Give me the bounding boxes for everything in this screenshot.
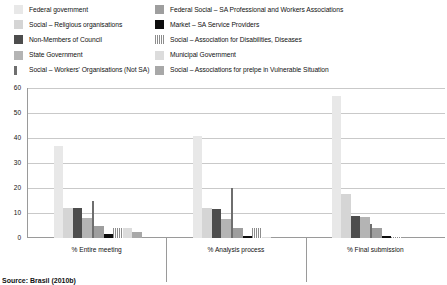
y-axis-tick-label: 20 [14, 185, 21, 192]
x-axis-category: % Analysis process [166, 238, 305, 260]
bar[interactable] [94, 226, 104, 239]
bar[interactable] [233, 228, 243, 238]
legend-item[interactable]: Social – Workers' Organisations (Not SA) [14, 63, 149, 78]
legend-item[interactable]: Federal Social – SA Professional and Wor… [155, 2, 343, 17]
bar[interactable] [202, 208, 212, 238]
source-caption: Source: Brasil (2010b) [2, 277, 76, 284]
legend-column-right: Federal Social – SA Professional and Wor… [155, 2, 343, 78]
y-axis-tick-label: 30 [14, 160, 21, 167]
y-axis-tick-label: 10 [14, 210, 21, 217]
bar[interactable] [63, 208, 73, 238]
legend-swatch-icon [14, 5, 23, 14]
bar-group [28, 88, 167, 238]
legend-item-label: Social – Association for Disabilities, D… [170, 36, 302, 44]
bar[interactable] [82, 218, 92, 238]
bar[interactable] [212, 209, 222, 238]
bar[interactable] [360, 217, 370, 238]
legend-item-label: Social – Workers' Organisations (Not SA) [29, 66, 149, 74]
legend-column-left: Federal governmentSocial – Religious org… [14, 2, 149, 78]
plot-wrapper: 6050403020100 [0, 88, 447, 238]
legend-item[interactable]: State Government [14, 48, 149, 63]
legend-item[interactable]: Social – Association for Disabilities, D… [155, 32, 343, 47]
bar[interactable] [193, 136, 203, 239]
bar[interactable] [221, 219, 231, 238]
legend-item-label: Federal Social – SA Professional and Wor… [170, 6, 343, 14]
chart-legend: Federal governmentSocial – Religious org… [0, 2, 447, 84]
x-axis-category: % Final submission [306, 238, 445, 260]
legend-item[interactable]: Social – Religious organisations [14, 17, 149, 32]
x-axis: % Entire meeting% Analysis process% Fina… [27, 238, 445, 260]
x-axis-category-label: % Final submission [347, 246, 404, 253]
plot-area [27, 88, 445, 238]
legend-swatch-icon [155, 5, 164, 14]
bar[interactable] [123, 228, 133, 238]
bar[interactable] [341, 194, 351, 238]
y-axis-tick-label: 0 [17, 235, 21, 242]
legend-item-label: Federal government [29, 6, 88, 14]
x-axis-category: % Entire meeting [27, 238, 166, 260]
legend-item-label: Social – Religious organisations [29, 21, 122, 29]
legend-swatch-icon [14, 66, 17, 75]
bar-chart-figure: Federal governmentSocial – Religious org… [0, 0, 447, 285]
legend-item[interactable]: Market – SA Service Providers [155, 17, 343, 32]
y-axis-tick-label: 40 [14, 135, 21, 142]
bar[interactable] [73, 208, 83, 238]
legend-item-label: Social – Associations for prelpe in Vuln… [170, 66, 329, 74]
bar-group [306, 88, 445, 238]
legend-item-label: Non-Members of Council [29, 36, 102, 44]
legend-swatch-icon [14, 20, 23, 29]
bar[interactable] [351, 216, 361, 239]
legend-item-label: State Government [29, 51, 82, 59]
legend-swatch-icon [14, 35, 23, 44]
legend-swatch-icon [155, 20, 164, 29]
bar[interactable] [252, 228, 262, 238]
legend-swatch-icon [155, 51, 164, 60]
legend-swatch-icon [155, 66, 164, 75]
x-axis-category-label: % Entire meeting [72, 246, 122, 253]
legend-item-label: Municipal Government [170, 51, 236, 59]
y-axis-tick-label: 50 [14, 110, 21, 117]
x-axis-category-label: % Analysis process [208, 246, 265, 253]
bar[interactable] [113, 228, 123, 238]
legend-item[interactable]: Federal government [14, 2, 149, 17]
bar[interactable] [332, 96, 342, 239]
legend-item[interactable]: Municipal Government [155, 48, 343, 63]
y-axis-tick-label: 60 [14, 85, 21, 92]
bar[interactable] [54, 146, 64, 239]
bar-groups [28, 88, 445, 238]
legend-swatch-icon [14, 51, 23, 60]
bar[interactable] [372, 228, 382, 238]
legend-item[interactable]: Social – Associations for prelpe in Vuln… [155, 63, 343, 78]
legend-swatch-icon [155, 35, 164, 44]
bar-group [167, 88, 306, 238]
y-axis: 6050403020100 [0, 88, 24, 238]
legend-item[interactable]: Non-Members of Council [14, 32, 149, 47]
legend-item-label: Market – SA Service Providers [170, 21, 259, 29]
